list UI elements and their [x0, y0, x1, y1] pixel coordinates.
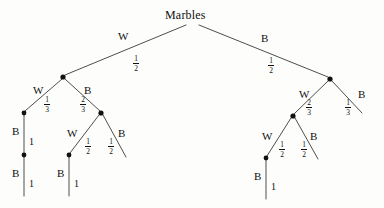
- edge-label-leftblack-black: B: [118, 128, 125, 139]
- probability-left-black: 2 3: [80, 96, 86, 113]
- fraction-denominator: 3: [80, 105, 86, 113]
- edge-label-left-white: W: [33, 85, 43, 96]
- tree-node-dots: [22, 74, 333, 160]
- probability-left-white: 1 3: [44, 96, 50, 113]
- edge-label-rightwhitewhite-black: B: [254, 171, 261, 182]
- fraction-numerator: 1: [345, 99, 351, 107]
- probability-leftblackwhite-black: 1: [74, 179, 79, 189]
- fraction-numerator: 2: [306, 99, 312, 107]
- edge-label-leftwhiteblack-black: B: [12, 168, 19, 179]
- fraction-numerator: 1: [133, 55, 139, 63]
- fraction-denominator: 2: [133, 64, 139, 72]
- node-dot-right-white: [290, 113, 295, 118]
- marbles-probability-tree-diagram: Marbles W B 1 2 1 2 W B 1 3 2 3 W B 2 3 …: [0, 0, 384, 208]
- edge-label-right-black: B: [358, 89, 365, 100]
- fraction-numerator: 2: [80, 96, 86, 104]
- probability-right-black: 1 3: [345, 99, 351, 116]
- probability-leftwhite-black: 1: [29, 137, 34, 147]
- fraction-denominator: 2: [85, 147, 91, 155]
- edge-label-level1-white: W: [118, 31, 128, 42]
- probability-right-white: 2 3: [306, 99, 312, 116]
- probability-level1-white: 1 2: [133, 55, 139, 72]
- edge-label-left-black: B: [84, 85, 91, 96]
- page-title: Marbles: [165, 9, 206, 21]
- fraction-denominator: 2: [268, 66, 274, 74]
- fraction-numerator: 1: [268, 57, 274, 65]
- fraction-denominator: 3: [345, 108, 351, 116]
- fraction-denominator: 2: [108, 147, 114, 155]
- probability-rightwhite-white: 1 2: [279, 141, 285, 158]
- fraction-denominator: 3: [44, 105, 50, 113]
- fraction-numerator: 1: [279, 141, 285, 149]
- edge-label-leftwhite-black: B: [12, 126, 19, 137]
- node-dot-right-white-white: [264, 156, 269, 161]
- fraction-numerator: 1: [44, 96, 50, 104]
- fraction-numerator: 1: [301, 141, 307, 149]
- node-dot-left-black: [98, 110, 103, 115]
- probability-rightwhite-black: 1 2: [301, 141, 307, 158]
- fraction-denominator: 2: [301, 150, 307, 158]
- probability-rightwhitewhite-black: 1: [271, 182, 276, 192]
- node-dot-right-level1: [327, 76, 332, 81]
- node-dot-left-white-black: [22, 153, 27, 158]
- fraction-denominator: 3: [306, 108, 312, 116]
- probability-level1-black: 1 2: [268, 57, 274, 74]
- probability-leftwhiteblack-black: 1: [29, 179, 34, 189]
- fraction-numerator: 1: [85, 138, 91, 146]
- edge-label-rightwhite-black: B: [310, 131, 317, 142]
- node-dot-left-white: [22, 111, 27, 116]
- edge-label-leftblackwhite-black: B: [57, 168, 64, 179]
- fraction-denominator: 2: [279, 150, 285, 158]
- edge-label-rightwhite-white: W: [262, 131, 272, 142]
- node-dot-left-level1: [60, 74, 65, 79]
- probability-leftblack-black: 1 2: [108, 138, 114, 155]
- fraction-numerator: 1: [108, 138, 114, 146]
- probability-leftblack-white: 1 2: [85, 138, 91, 155]
- node-dot-left-black-white: [67, 153, 72, 158]
- edge-label-leftblack-white: W: [67, 128, 77, 139]
- edge-label-level1-black: B: [261, 33, 268, 44]
